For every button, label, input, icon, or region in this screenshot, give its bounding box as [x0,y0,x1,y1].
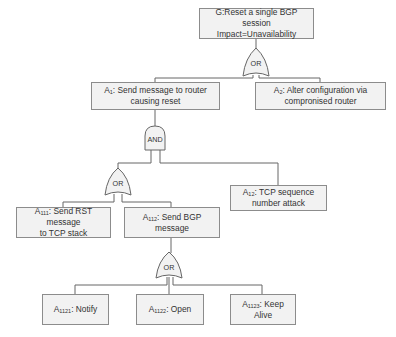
node-a2-label: A2: Alter configuration via compronised … [274,85,367,107]
node-a1: A1: Send message to router causing reset [91,82,220,110]
svg-text:OR: OR [164,263,175,272]
node-a2: A2: Alter configuration via compronised … [255,82,386,110]
and-gate-a1: AND [145,126,165,150]
edge-and-to-a12 [160,150,278,185]
node-a111-label: A111: Send RST message to TCP stack [20,206,107,239]
node-a1121-label: A1121: Notify [54,304,97,315]
node-goal-root: G:Reset a single BGP session Impact=Unav… [199,8,314,39]
svg-text:OR: OR [113,179,124,188]
connector-layer: OR AND OR OR [0,0,396,337]
svg-text:AND: AND [147,135,162,144]
edge-or3-to-a1123 [173,277,262,294]
edge-or2-to-a112 [122,194,171,207]
svg-text:OR: OR [251,59,262,68]
node-a111: A111: Send RST message to TCP stack [16,207,111,238]
or-gate-root: OR [243,48,269,76]
node-a112: A112: Send BGP message [124,207,220,238]
node-a1123: A1123: Keep Alive [230,294,296,325]
node-a1122: A1122: Open [136,294,204,325]
node-a12: A12: TCP sequence number attack [230,185,327,211]
node-a1122-label: A1122: Open [149,304,192,315]
or-gate-a112: OR [156,252,182,278]
or-gate-a11: OR [105,168,131,195]
node-a12-label: A12: TCP sequence number attack [243,187,314,209]
edge-or-to-a1 [155,75,253,82]
node-a1121: A1121: Notify [42,294,109,325]
node-a112-label: A112: Send BGP message [143,212,202,234]
node-goal-label: G:Reset a single BGP session Impact=Unav… [203,7,310,40]
node-a1-label: A1: Send message to router causing reset [104,85,207,107]
edge-or3-to-a1121 [75,277,167,294]
node-a1123-label: A1123: Keep Alive [234,299,292,321]
edge-and-to-or2 [118,150,151,170]
attack-tree-diagram: OR AND OR OR G:Reset a single BGP sessio… [0,0,396,337]
